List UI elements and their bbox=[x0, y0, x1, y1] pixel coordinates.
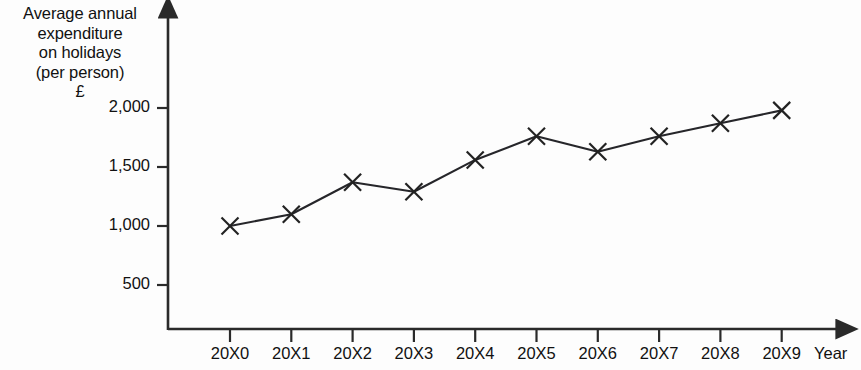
y-axis-tick-label: 1,000 bbox=[60, 215, 150, 234]
y-axis-tick-label: 2,000 bbox=[60, 97, 150, 116]
y-axis-tick-marks bbox=[157, 108, 168, 285]
x-axis-tick-label: 20X5 bbox=[502, 344, 572, 363]
chart-canvas bbox=[0, 0, 861, 370]
data-point-marker bbox=[467, 151, 484, 168]
data-point-marker bbox=[528, 128, 545, 145]
x-axis-tick-label: 20X6 bbox=[563, 344, 633, 363]
data-point-marker bbox=[222, 218, 239, 235]
x-axis-tick-label: 20X8 bbox=[685, 344, 755, 363]
data-point-marker bbox=[589, 143, 606, 160]
data-point-marker bbox=[283, 206, 300, 223]
y-axis-tick-label: 1,500 bbox=[60, 156, 150, 175]
x-axis-tick-label: 20X1 bbox=[256, 344, 326, 363]
y-axis-tick-label: 500 bbox=[60, 274, 150, 293]
x-axis-tick-label: 20X9 bbox=[747, 344, 817, 363]
x-axis-tick-label: 20X7 bbox=[624, 344, 694, 363]
x-axis-tick-label: 20X4 bbox=[440, 344, 510, 363]
data-point-marker bbox=[773, 102, 790, 119]
x-axis-tick-label: 20X2 bbox=[318, 344, 388, 363]
x-axis-tick-label: 20X0 bbox=[195, 344, 265, 363]
x-axis-tick-label: 20X3 bbox=[379, 344, 449, 363]
line-chart-figure: Average annual expenditure on holidays (… bbox=[0, 0, 861, 370]
data-line bbox=[230, 110, 782, 226]
data-point-marker bbox=[651, 128, 668, 145]
data-point-markers bbox=[222, 102, 791, 235]
data-point-marker bbox=[712, 115, 729, 132]
x-axis-tick-marks bbox=[230, 329, 782, 342]
